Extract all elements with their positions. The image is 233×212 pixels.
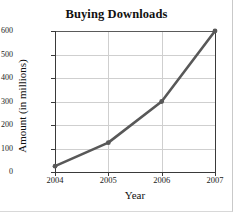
x-tick-label-2005: 2005 [88,175,128,185]
y-axis-label: Amount (in millions) [16,36,28,176]
y-tick-label-600: 600 [0,27,13,35]
y-tick-label-100: 100 [0,145,13,153]
x-tick-label-2004: 2004 [35,175,75,185]
x-tick-2005 [108,172,109,176]
x-tick-2006 [162,172,163,176]
x-tick-label-2006: 2006 [142,175,182,185]
data-point-2004 [53,164,58,169]
axis-right-spine [215,31,216,173]
chart-title: Buying Downloads [0,7,233,22]
data-point-2006 [159,99,164,104]
y-tick-label-0: 0 [0,168,13,176]
x-axis-label: Year [55,189,215,201]
chart-figure: Buying Downloads Amount (in millions) 60… [0,0,233,212]
y-tick-label-200: 200 [0,121,13,129]
y-tick-label-300: 300 [0,98,13,106]
data-series-line [55,31,215,172]
data-point-2007 [213,29,218,34]
x-tick-2007 [215,172,216,176]
plot-area [55,31,215,172]
data-point-2005 [106,140,111,145]
x-tick-label-2007: 2007 [195,175,233,185]
y-tick-label-500: 500 [0,51,13,59]
y-tick-label-400: 400 [0,74,13,82]
x-tick-2004 [55,172,56,176]
axis-bottom-spine [55,172,216,173]
